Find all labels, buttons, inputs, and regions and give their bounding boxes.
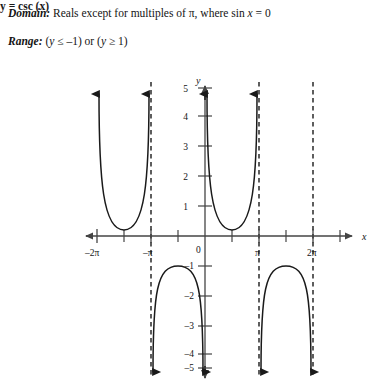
y-tick-label-minus-5: –5 bbox=[184, 363, 195, 373]
csc-branch-zero-pi bbox=[207, 94, 257, 230]
origin-label: 0 bbox=[196, 245, 201, 255]
asymptote-group bbox=[151, 82, 313, 376]
domain-text-before: Reals except for multiples of bbox=[50, 7, 189, 19]
y-tick-label-minus-3: –3 bbox=[184, 321, 195, 331]
domain-label: Domain: bbox=[8, 7, 50, 19]
csc-branch-minus-pi-zero bbox=[153, 266, 203, 372]
x-tick-label-2pi: 2π bbox=[307, 248, 317, 258]
range-statement: Range: (y ≤ –1) or (y ≥ 1) bbox=[8, 34, 128, 48]
y-tick-label-4: 4 bbox=[183, 112, 188, 122]
range-label: Range: bbox=[8, 35, 43, 47]
csc-branch-minus-2pi-minus-pi bbox=[99, 94, 149, 230]
y-tick-label-minus-2: –2 bbox=[184, 291, 195, 301]
graph-canvas: x y 0 –2π –π π 2π 1 2 3 4 5 –1 –2 –3 –4 … bbox=[0, 60, 380, 380]
csc-graph-svg: x y 0 –2π –π π 2π 1 2 3 4 5 –1 –2 –3 –4 … bbox=[0, 60, 380, 380]
y-tick-label-5: 5 bbox=[183, 84, 188, 94]
x-tick-label-minus-pi: –π bbox=[142, 248, 153, 258]
csc-branch-pi-2pi bbox=[261, 266, 311, 372]
figure-page: Domain: Reals except for multiples of π,… bbox=[0, 0, 380, 380]
y-tick-label-3: 3 bbox=[183, 142, 188, 152]
range-second-relation: ≥ 1) bbox=[106, 35, 128, 47]
domain-text-end: = 0 bbox=[253, 7, 271, 19]
y-tick-label-1: 1 bbox=[183, 202, 188, 212]
y-axis-label: y bbox=[195, 75, 201, 86]
axis-text-group: x y 0 –2π –π π 2π 1 2 3 4 5 –1 –2 –3 –4 … bbox=[84, 75, 367, 373]
x-tick-label-minus-2pi: –2π bbox=[84, 248, 100, 258]
y-tick-label-2: 2 bbox=[183, 172, 188, 182]
y-axis-group bbox=[198, 86, 212, 378]
range-conjunction: or bbox=[82, 35, 97, 47]
x-tick-label-pi: π bbox=[255, 248, 260, 258]
y-tick-label-minus-4: –4 bbox=[184, 349, 195, 359]
domain-text-after: , where sin bbox=[195, 7, 248, 19]
x-axis-group bbox=[86, 229, 352, 243]
domain-statement: Domain: Reals except for multiples of π,… bbox=[8, 6, 271, 20]
y-tick-label-minus-1: –1 bbox=[184, 261, 195, 271]
x-axis-label: x bbox=[361, 231, 367, 242]
range-first-relation: ≤ –1) bbox=[54, 35, 81, 47]
